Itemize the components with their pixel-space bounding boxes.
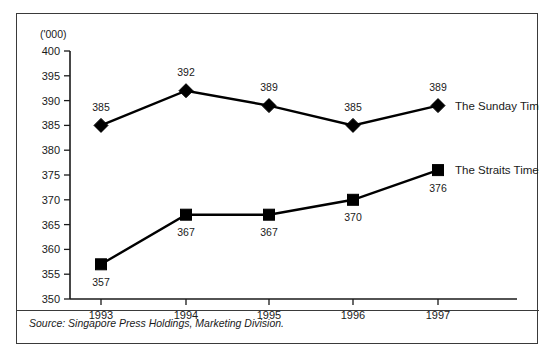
value-label-sunday-1994: 392	[177, 66, 195, 78]
y-tick-label-350: 350	[42, 293, 60, 305]
y-tick-label-365: 365	[42, 219, 60, 231]
value-label-straits-1995: 367	[260, 226, 278, 238]
value-label-straits-1994: 367	[177, 226, 195, 238]
figure-frame: 400 395 390 385 380 375 370 365 360 355 …	[16, 13, 538, 344]
series-markers-straits-times	[96, 165, 444, 270]
value-label-sunday-1993: 385	[92, 101, 110, 113]
y-tick-label-400: 400	[42, 45, 60, 57]
value-label-sunday-1997: 389	[429, 81, 447, 93]
y-axis-unit-label: ('000)	[40, 28, 67, 40]
series-label-straits-times: The Straits Times	[455, 164, 539, 176]
chart-plot-area: 400 395 390 385 380 375 370 365 360 355 …	[17, 14, 539, 345]
value-label-straits-1993: 357	[92, 276, 110, 288]
y-tick-label-375: 375	[42, 169, 60, 181]
y-tick-label-390: 390	[42, 95, 60, 107]
y-tick-label-380: 380	[42, 144, 60, 156]
value-label-straits-1996: 370	[344, 211, 362, 223]
value-label-straits-1997: 376	[429, 182, 447, 194]
y-axis-ticks	[64, 51, 70, 299]
value-label-sunday-1996: 385	[344, 101, 362, 113]
y-tick-label-370: 370	[42, 194, 60, 206]
source-note: Source: Singapore Press Holdings, Market…	[29, 317, 284, 329]
y-tick-label-385: 385	[42, 119, 60, 131]
line-chart: 400 395 390 385 380 375 370 365 360 355 …	[17, 14, 539, 345]
series-label-sunday-times: The Sunday Times	[455, 100, 539, 112]
x-axis-ticks	[101, 299, 438, 305]
y-tick-label-395: 395	[42, 70, 60, 82]
y-tick-label-355: 355	[42, 268, 60, 280]
y-tick-label-360: 360	[42, 243, 60, 255]
value-label-sunday-1995: 389	[260, 81, 278, 93]
source-divider	[17, 310, 539, 311]
